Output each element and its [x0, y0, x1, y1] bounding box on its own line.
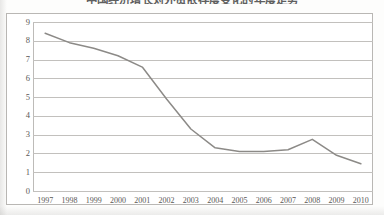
- chart-title: 中国经济增长对外贸依存度变化的年度走势: [0, 0, 384, 4]
- data-line-svg: [6, 13, 373, 205]
- scanned-page: 中国经济增长对外贸依存度变化的年度走势 0123456789 199719981…: [0, 0, 384, 215]
- plot-area: 0123456789 19971998199920002001200220032…: [6, 13, 373, 205]
- scan-edge-shadow-bottom: [0, 206, 384, 215]
- data-series-line: [45, 33, 361, 164]
